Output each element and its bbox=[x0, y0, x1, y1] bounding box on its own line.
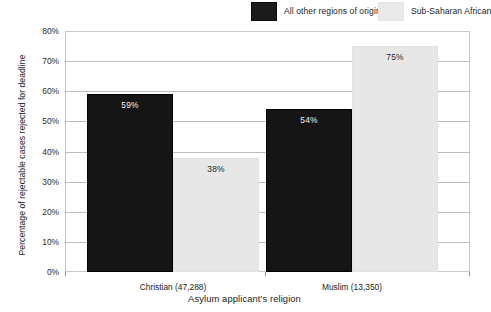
bar-value-label: 54% bbox=[267, 115, 351, 125]
bar: 54% bbox=[266, 109, 352, 272]
x-axis-tick bbox=[469, 272, 470, 276]
legend-item-sub-saharan-african: Sub-Saharan African bbox=[378, 1, 491, 21]
y-axis-tick-label: 70% bbox=[16, 56, 59, 66]
x-axis-tick bbox=[265, 272, 266, 276]
x-axis-title: Asylum applicant's religion bbox=[0, 293, 489, 304]
legend-label-all-other-regions: All other regions of origin bbox=[284, 6, 381, 16]
legend-swatch-icon-dark bbox=[251, 2, 277, 21]
bar: 59% bbox=[87, 94, 173, 272]
y-axis-tick-label: 30% bbox=[16, 177, 59, 187]
x-axis-category-label: Muslim (13,350) bbox=[322, 282, 382, 292]
y-axis-tick-label: 50% bbox=[16, 116, 59, 126]
legend-label-sub-saharan-african: Sub-Saharan African bbox=[411, 6, 491, 16]
bar-value-label: 59% bbox=[88, 100, 172, 110]
bar: 75% bbox=[352, 46, 438, 272]
y-axis-tick-label: 10% bbox=[16, 237, 59, 247]
legend-swatch-icon-light bbox=[378, 2, 404, 21]
bar-value-label: 75% bbox=[353, 52, 437, 62]
x-axis-tick bbox=[65, 272, 66, 276]
bar-value-label: 38% bbox=[174, 164, 258, 174]
y-axis-tick-label: 20% bbox=[16, 207, 59, 217]
bar-group-container: 59%38%54%75% bbox=[65, 31, 470, 272]
x-axis-category-label: Christian (47,288) bbox=[140, 282, 207, 292]
y-axis-tick-label: 80% bbox=[16, 26, 59, 36]
legend-item-all-other-regions: All other regions of origin bbox=[251, 1, 381, 21]
y-axis-tick-label: 60% bbox=[16, 86, 59, 96]
bar: 38% bbox=[173, 158, 259, 272]
chart-legend: All other regions of origin Sub-Saharan … bbox=[0, 0, 489, 24]
y-axis-tick-label: 40% bbox=[16, 147, 59, 157]
y-axis-tick-label: 0% bbox=[16, 267, 59, 277]
